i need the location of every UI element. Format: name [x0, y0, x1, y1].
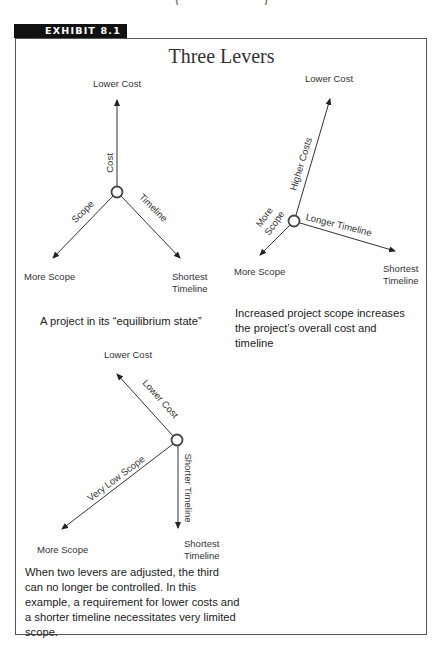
- lever-label-shorter-timeline: Shorter Timeline: [183, 453, 194, 522]
- lever-label-timeline: Timeline: [137, 191, 170, 224]
- caption-two-levers-adjusted: When two levers are adjusted, the third …: [25, 565, 240, 640]
- diagram-increased-scope: Lower Cost More Scope Shortest Timeline …: [234, 73, 419, 286]
- diagram-two-levers-adjusted: Lower Cost More Scope Shortest Timeline …: [37, 349, 220, 561]
- increased-scope-pivot-circle: [289, 216, 300, 227]
- caption-equilibrium: A project in its “equilibrium state”: [40, 314, 210, 329]
- lever-label-lower-cost: Lower Cost: [140, 377, 181, 420]
- endpoint-lower-cost: Lower Cost: [305, 73, 353, 84]
- lever-label-very-low-scope: Very Low Scope: [85, 453, 146, 503]
- adjusted-pivot-circle: [172, 435, 183, 446]
- endpoint-shortest-timeline-1: Shortest: [383, 263, 419, 274]
- endpoint-lower-cost: Lower Cost: [104, 349, 152, 360]
- scope-lever-arrow: [62, 444, 173, 529]
- lever-label-scope: Scope: [69, 198, 96, 225]
- caption-increased-scope: Increased project scope increases the pr…: [235, 306, 415, 351]
- endpoint-shortest-timeline-2: Timeline: [184, 550, 220, 561]
- endpoint-more-scope: More Scope: [37, 544, 88, 555]
- endpoint-shortest-timeline-2: Timeline: [383, 275, 419, 286]
- endpoint-lower-cost: Lower Cost: [93, 78, 141, 89]
- equilibrium-pivot-circle: [112, 187, 123, 198]
- endpoint-more-scope: More Scope: [234, 266, 285, 277]
- endpoint-more-scope: More Scope: [24, 271, 75, 282]
- lever-label-higher-costs: Higher Costs: [287, 136, 314, 192]
- endpoint-shortest-timeline-1: Shortest: [172, 271, 208, 282]
- endpoint-shortest-timeline-1: Shortest: [184, 538, 220, 549]
- endpoint-shortest-timeline-2: Timeline: [172, 283, 208, 294]
- diagram-equilibrium: Lower Cost More Scope Shortest Timeline …: [24, 78, 208, 294]
- lever-label-cost: Cost: [104, 153, 115, 173]
